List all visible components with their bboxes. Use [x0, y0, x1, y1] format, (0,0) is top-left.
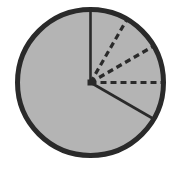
center-point	[88, 80, 94, 86]
fraction-circle-diagram	[0, 0, 187, 173]
pie-svg	[0, 0, 187, 173]
